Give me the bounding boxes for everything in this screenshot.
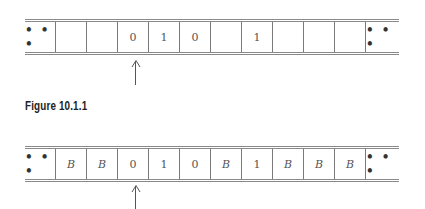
read-head-arrow-icon <box>131 60 141 85</box>
tape-figure-2: • • • B B 0 1 0 B 1 B B B • • • <box>25 146 399 182</box>
read-head-arrow-icon <box>131 185 141 209</box>
tape-cell <box>273 22 304 52</box>
tape-cell: 1 <box>242 149 273 179</box>
tape-cell <box>304 22 335 52</box>
tape-cells: • • • 0 1 0 1 • • • <box>25 22 399 52</box>
tape-figure-1: • • • 0 1 0 1 • • • <box>25 19 399 55</box>
tape-cell-ellipsis-left: • • • <box>25 149 56 179</box>
tape-cell-ellipsis-left: • • • <box>25 22 56 52</box>
tape-cell: B <box>304 149 335 179</box>
tape-cell: 1 <box>242 22 273 52</box>
tape-cell-head: 0 <box>118 22 149 52</box>
tape-bottom-rail <box>25 179 399 182</box>
tape-cell: 1 <box>149 149 180 179</box>
tape-cell <box>211 22 242 52</box>
tape-cell: 0 <box>180 149 211 179</box>
arrowhead-icon <box>131 60 141 68</box>
tape-cell-ellipsis-right: • • • <box>366 149 399 179</box>
tape-cell <box>335 22 366 52</box>
arrowhead-icon <box>131 185 141 193</box>
tape-cell: B <box>211 149 242 179</box>
tape-cell: 1 <box>149 22 180 52</box>
tape-cells: • • • B B 0 1 0 B 1 B B B • • • <box>25 149 399 179</box>
tape-bottom-rail <box>25 52 399 55</box>
tape-cell-head: 0 <box>118 149 149 179</box>
tape-cell: B <box>87 149 118 179</box>
tape-cell <box>56 22 87 52</box>
tape-cell: B <box>335 149 366 179</box>
tape-cell-ellipsis-right: • • • <box>366 22 399 52</box>
tape-cell: B <box>56 149 87 179</box>
figure-caption: Figure 10.1.1 <box>25 99 87 113</box>
tape-cell: 0 <box>180 22 211 52</box>
tape-cell: B <box>273 149 304 179</box>
tape-cell <box>87 22 118 52</box>
